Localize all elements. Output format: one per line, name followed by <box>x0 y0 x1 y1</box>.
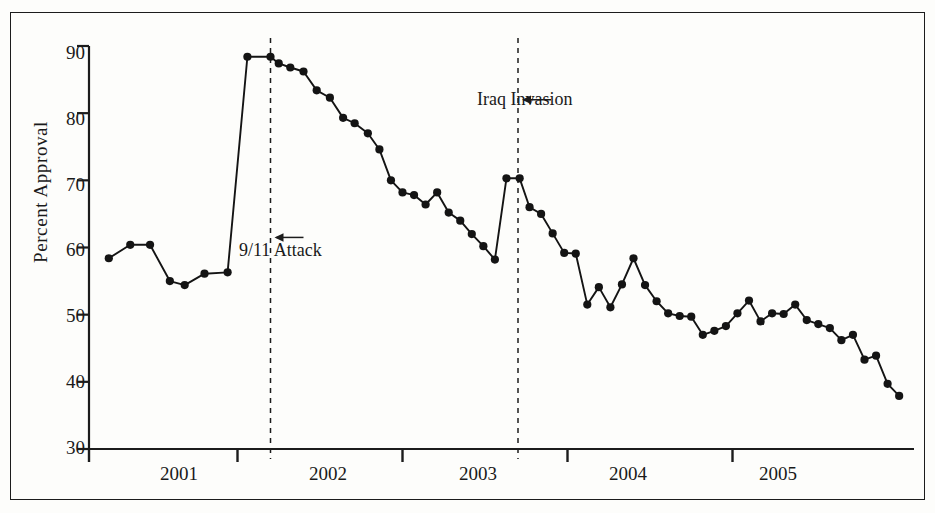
data-point <box>872 352 880 360</box>
data-point <box>884 380 892 388</box>
data-point <box>826 324 834 332</box>
data-point <box>243 53 251 61</box>
data-point <box>200 270 208 278</box>
figure-frame: Percent Approval 90 80 70 60 50 40 30 20… <box>10 12 925 500</box>
data-point <box>166 277 174 285</box>
data-point <box>502 174 510 182</box>
data-point <box>491 255 499 263</box>
data-point <box>422 200 430 208</box>
data-point <box>687 313 695 321</box>
annotation-arrows <box>275 96 552 242</box>
data-point <box>105 254 113 262</box>
y-axis-ticks <box>77 46 89 449</box>
data-point <box>791 300 799 308</box>
data-point <box>375 145 383 153</box>
figure-container: Percent Approval 90 80 70 60 50 40 30 20… <box>0 0 935 513</box>
axis-lines <box>88 46 914 449</box>
series-line-presidential-approval <box>109 57 899 396</box>
data-point <box>537 210 545 218</box>
data-point <box>410 191 418 199</box>
data-point <box>146 241 154 249</box>
arrow-head-911 <box>275 233 284 241</box>
data-point <box>803 316 811 324</box>
data-point <box>756 317 764 325</box>
data-point <box>351 119 359 127</box>
data-point <box>595 283 603 291</box>
data-point <box>572 249 580 257</box>
data-point <box>387 176 395 184</box>
data-point <box>629 254 637 262</box>
data-point <box>468 230 476 238</box>
data-point <box>733 309 741 317</box>
data-point <box>525 203 533 211</box>
data-point <box>768 309 776 317</box>
data-point <box>313 86 321 94</box>
data-point <box>618 280 626 288</box>
data-point <box>479 242 487 250</box>
data-point <box>699 331 707 339</box>
data-point <box>606 303 614 311</box>
data-point <box>895 392 903 400</box>
data-point <box>560 249 568 257</box>
data-point <box>710 327 718 335</box>
data-point <box>780 310 788 318</box>
data-point <box>549 229 557 237</box>
data-point <box>339 114 347 122</box>
data-point <box>266 53 274 61</box>
data-point <box>224 268 232 276</box>
data-point <box>181 281 189 289</box>
data-point <box>299 67 307 75</box>
data-point <box>516 174 524 182</box>
data-point <box>445 208 453 216</box>
data-point <box>456 217 464 225</box>
data-point <box>641 281 649 289</box>
data-point <box>364 129 372 137</box>
data-point <box>849 331 857 339</box>
data-point <box>286 63 294 71</box>
data-point <box>326 94 334 102</box>
data-point <box>275 59 283 67</box>
data-point <box>860 356 868 364</box>
plot-area <box>11 13 926 501</box>
x-axis-ticks <box>89 449 733 462</box>
data-point <box>676 312 684 320</box>
data-point <box>814 320 822 328</box>
data-point <box>745 296 753 304</box>
data-point <box>398 188 406 196</box>
data-point <box>722 322 730 330</box>
data-point <box>653 297 661 305</box>
data-point <box>837 336 845 344</box>
series-markers <box>105 53 904 400</box>
data-point <box>433 188 441 196</box>
data-point <box>583 300 591 308</box>
arrow-head-iraq <box>522 96 531 104</box>
data-point <box>664 309 672 317</box>
data-point <box>126 241 134 249</box>
